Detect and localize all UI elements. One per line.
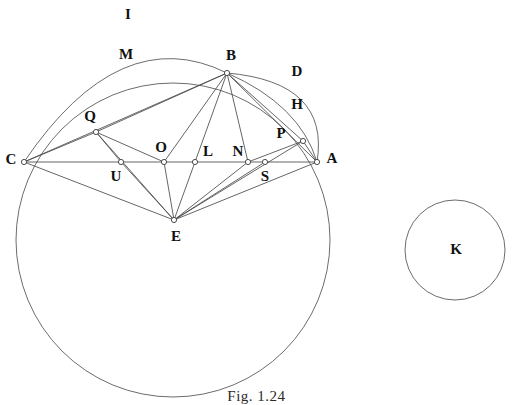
vertex-P bbox=[300, 138, 305, 143]
vertex-S bbox=[262, 159, 267, 164]
vertex-E bbox=[171, 217, 176, 222]
arc-M bbox=[24, 59, 227, 162]
point-label-L: L bbox=[203, 143, 213, 159]
point-label-O: O bbox=[155, 139, 167, 155]
point-label-E: E bbox=[171, 228, 181, 244]
point-label-S: S bbox=[261, 168, 269, 184]
point-label-B: B bbox=[226, 47, 236, 63]
geometry-figure: IMDHABCELNOPQSUK Fig. 1.24 bbox=[0, 0, 513, 405]
point-label-K: K bbox=[450, 241, 462, 257]
vertex-Q bbox=[93, 129, 98, 134]
arc-M-label: M bbox=[119, 46, 133, 62]
vertex-B bbox=[224, 70, 229, 75]
arc-D-label: D bbox=[292, 63, 303, 79]
segment-E-A bbox=[174, 162, 317, 220]
vertex-L bbox=[192, 159, 197, 164]
point-label-N: N bbox=[233, 143, 244, 159]
labels-layer: IMDHABCELNOPQSUK bbox=[6, 6, 463, 257]
segment-N-P bbox=[248, 141, 303, 162]
point-label-C: C bbox=[6, 151, 17, 167]
vertex-O bbox=[161, 159, 166, 164]
point-label-Q: Q bbox=[84, 108, 96, 124]
vertex-C bbox=[21, 159, 26, 164]
segment-N-E bbox=[174, 162, 248, 220]
point-label-A: A bbox=[327, 150, 338, 166]
vertex-U bbox=[118, 159, 123, 164]
point-label-U: U bbox=[111, 168, 122, 184]
vertex-A bbox=[314, 159, 319, 164]
point-label-P: P bbox=[276, 125, 285, 141]
segments-layer bbox=[24, 73, 317, 220]
circle-I-label: I bbox=[125, 6, 131, 22]
diagram-canvas: IMDHABCELNOPQSUK bbox=[0, 0, 513, 405]
segment-C-E bbox=[24, 162, 174, 220]
segment-Q-O bbox=[96, 132, 164, 162]
arc-H-label: H bbox=[291, 96, 303, 112]
vertex-N bbox=[245, 159, 250, 164]
segment-U-E bbox=[121, 162, 174, 220]
segment-Q-B bbox=[96, 73, 227, 132]
figure-caption: Fig. 1.24 bbox=[0, 388, 513, 405]
